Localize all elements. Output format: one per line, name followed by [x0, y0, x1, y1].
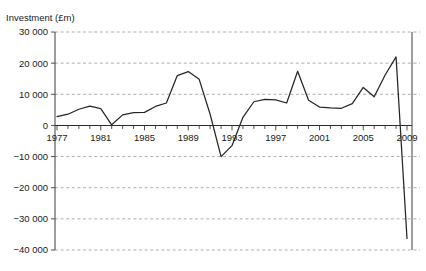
x-tick-labels-group: 197719811985198919931997200120052009 — [46, 132, 417, 143]
y-tick-label: −20 000 — [13, 182, 48, 193]
axis-title: Investment (£m) — [6, 12, 75, 23]
y-tick-label: −40 000 — [13, 244, 48, 255]
x-axis-ticks-group — [57, 125, 407, 130]
x-tick-label: 1985 — [134, 132, 155, 143]
chart-canvas: 30 00020 00010 0000−10 000−20 000−30 000… — [0, 0, 426, 271]
y-tick-label: 30 000 — [19, 26, 48, 37]
x-tick-label: 2009 — [396, 132, 417, 143]
x-tick-label: 1981 — [90, 132, 111, 143]
x-tick-label: 2001 — [309, 132, 330, 143]
x-tick-label: 1989 — [178, 132, 199, 143]
x-tick-label: 2005 — [353, 132, 374, 143]
y-tick-label: −30 000 — [13, 213, 48, 224]
series-line-investment — [57, 57, 407, 239]
y-tick-label: 20 000 — [19, 58, 48, 69]
data-series-group — [57, 57, 407, 239]
y-tick-label: 0 — [43, 120, 48, 131]
y-tick-label: −10 000 — [13, 151, 48, 162]
x-tick-label: 1977 — [46, 132, 67, 143]
x-tick-label: 1993 — [221, 132, 242, 143]
y-tick-labels-group: 30 00020 00010 0000−10 000−20 000−30 000… — [13, 26, 48, 255]
y-tick-label: 10 000 — [19, 89, 48, 100]
investment-line-chart: 30 00020 00010 0000−10 000−20 000−30 000… — [0, 0, 426, 271]
x-tick-label: 1997 — [265, 132, 286, 143]
